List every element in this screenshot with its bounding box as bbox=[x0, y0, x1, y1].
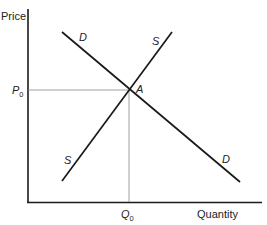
price-p0-label: P0 bbox=[12, 84, 24, 99]
equilibrium-point-label: A bbox=[135, 83, 143, 95]
supply-demand-diagram: Price Quantity D D S S A P0 Q0 bbox=[0, 0, 267, 225]
y-axis-label: Price bbox=[1, 10, 26, 22]
quantity-q0-label: Q0 bbox=[121, 208, 134, 223]
demand-curve bbox=[62, 32, 240, 182]
supply-label-lower: S bbox=[64, 154, 72, 166]
x-axis-label: Quantity bbox=[197, 208, 238, 220]
demand-label-lower: D bbox=[222, 153, 230, 165]
supply-curve bbox=[62, 32, 172, 181]
supply-label-upper: S bbox=[152, 35, 160, 47]
demand-label-upper: D bbox=[79, 31, 87, 43]
